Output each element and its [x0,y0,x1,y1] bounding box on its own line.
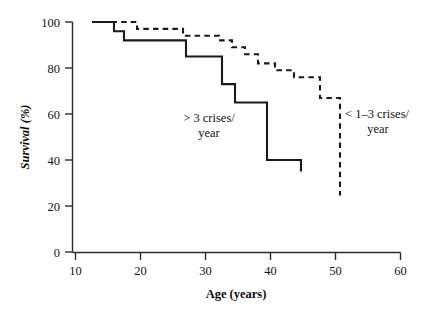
annotation-line-1: < 1–3 crises/ [345,107,410,121]
y-tick-label-60: 60 [48,108,61,122]
annotation-line-2: year [198,126,220,140]
y-tick-label-80: 80 [48,62,61,76]
x-axis-tick-labels: 10 20 30 40 50 60 [69,264,407,278]
y-tick-label-20: 20 [48,200,61,214]
x-tick-label-60: 60 [394,264,407,278]
x-tick-label-20: 20 [134,264,147,278]
y-axis-tick-labels: 100 80 60 40 20 0 [41,16,60,260]
y-axis-ticks [65,22,73,252]
x-tick-label-50: 50 [329,264,342,278]
axis-lines [73,22,401,253]
x-tick-label-40: 40 [264,264,277,278]
series-line-less-than-1-to-3-crises [92,22,340,196]
x-tick-label-10: 10 [69,264,82,278]
annotation-more-than-3-crises: > 3 crises/ year [183,111,235,140]
survival-curve-chart: 100 80 60 40 20 0 10 20 30 40 50 60 Age … [0,0,421,312]
y-tick-label-0: 0 [54,246,60,260]
annotation-less-than-1-to-3-crises: < 1–3 crises/ year [345,107,410,136]
chart-figure: 100 80 60 40 20 0 10 20 30 40 50 60 Age … [0,0,421,312]
x-axis-title: Age (years) [206,287,267,301]
annotation-line-1: > 3 crises/ [183,111,235,125]
x-tick-label-30: 30 [199,264,212,278]
y-tick-label-100: 100 [41,16,60,30]
y-axis-title: Survival (%) [18,105,32,170]
y-tick-label-40: 40 [48,154,61,168]
annotation-line-2: year [367,122,389,136]
series-line-more-than-3-crises [92,22,301,172]
x-axis-ticks [76,253,401,261]
